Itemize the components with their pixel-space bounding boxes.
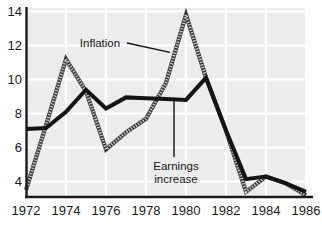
x-tick-label: 1984 [252, 203, 281, 218]
x-tick-label: 1974 [52, 203, 81, 218]
chart-container: 468101214 197219741976197819801982198419… [0, 0, 322, 229]
x-tick-label: 1978 [132, 203, 161, 218]
x-tick-label: 1972 [12, 203, 41, 218]
y-tick-label: 10 [8, 72, 22, 87]
x-axis-tick-labels: 19721974197619781980198219841986 [12, 203, 321, 218]
y-tick-label: 12 [8, 38, 22, 53]
y-tick-label: 6 [15, 140, 22, 155]
x-tick-label: 1986 [292, 203, 321, 218]
line-chart: 468101214 197219741976197819801982198419… [0, 0, 322, 229]
y-tick-label: 14 [8, 4, 22, 19]
x-tick-label: 1976 [92, 203, 121, 218]
x-tick-label: 1982 [212, 203, 241, 218]
annotation-label: increase [154, 173, 197, 185]
y-axis-tick-labels: 468101214 [8, 4, 22, 189]
annotation-label: Inflation [80, 37, 120, 49]
y-tick-label: 4 [15, 174, 22, 189]
y-tick-label: 8 [15, 106, 22, 121]
annotation-label: Earnings [153, 160, 199, 172]
x-tick-label: 1980 [172, 203, 201, 218]
